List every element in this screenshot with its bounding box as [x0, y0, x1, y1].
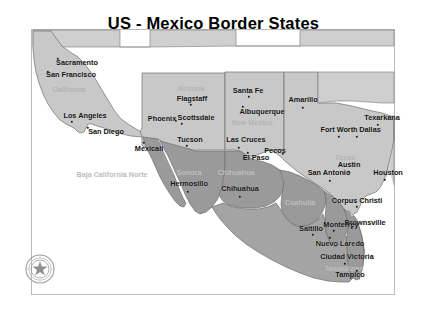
state-label-baja-california-norte: Baja California Norte [76, 170, 147, 179]
city-label-hermosillo: Hermosillo [170, 179, 208, 188]
city-label-tucson: Tucson [177, 135, 202, 144]
city-label-fort-worth: Fort Worth [320, 125, 357, 134]
city-label-chihuahua: Chihuahua [221, 184, 259, 193]
city-label-corpus-christi: Corpus Christi [332, 196, 383, 205]
state-label-new-mexico: New Mexico [231, 118, 272, 127]
page-title: US - Mexico Border States [0, 14, 427, 33]
city-label-houston: Houston [373, 168, 403, 177]
city-label-scottsdale: Scottsdale [178, 113, 215, 122]
state-label-arizona: Arizona [178, 84, 204, 93]
texas-state-seal [24, 253, 56, 285]
city-label-mexicali: Mexicali [135, 144, 163, 153]
city-label-santa-fe: Santa Fe [233, 86, 263, 95]
city-label-tampico: Tampico [335, 270, 364, 279]
state-label-coahuila: Coahuila [285, 198, 315, 207]
city-label-pecos: Pecos [264, 146, 286, 155]
city-label-flagstaff: Flagstaff [177, 94, 207, 103]
city-label-san-diego: San Diego [88, 127, 124, 136]
city-label-texarkana: Texarkana [364, 113, 400, 122]
city-label-ciudad-victoria: Ciudad Victoria [320, 252, 373, 261]
state-label-california: California [52, 85, 85, 94]
city-label-las-cruces: Las Cruces [226, 135, 265, 144]
city-label-san-francisco: San Francisco [46, 70, 96, 79]
city-label-dallas: Dallas [359, 125, 381, 134]
city-label-monterrey: Monterrey [323, 220, 358, 229]
state-oklahoma-strip [318, 72, 394, 103]
city-label-albuquerque: Albuquerque [240, 107, 285, 116]
city-label-phoenix: Phoenix [148, 114, 176, 123]
city-label-saltillo: Saltillo [299, 224, 323, 233]
city-label-nuevo-laredo: Nuevo Laredo [316, 239, 365, 248]
city-label-los-angeles: Los Angeles [63, 111, 106, 120]
city-label-amarillo: Amarillo [288, 95, 317, 104]
slide-page: .us { fill:#c8c8c8; stroke:#6e6e6e; stro… [0, 0, 427, 316]
state-label-chihuahua: Chihuahua [217, 168, 254, 177]
city-label-sacramento: Sacramento [56, 58, 98, 67]
state-label-sonora: Sonora [177, 168, 202, 177]
city-label-san-antonio: San Antonio [308, 168, 351, 177]
